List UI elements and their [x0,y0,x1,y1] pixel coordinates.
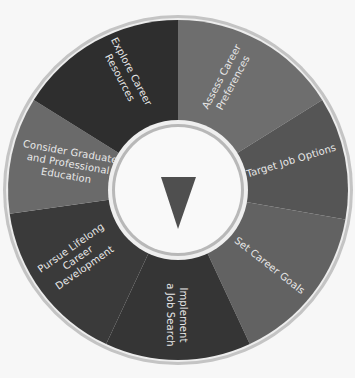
svg-text:a Job Search: a Job Search [165,283,176,346]
wheel-svg: Assess Career Preferences Target Job Opt… [0,0,355,378]
svg-text:Implement: Implement [178,287,189,342]
career-wheel-diagram: Assess Career Preferences Target Job Opt… [0,0,355,378]
